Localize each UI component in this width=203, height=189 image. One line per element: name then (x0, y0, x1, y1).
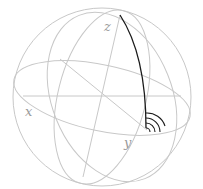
x-axis-line (60, 59, 147, 130)
sphere-diagram: z x y (0, 0, 203, 189)
sphere-outline (13, 8, 191, 186)
y-axis-label: y (123, 135, 132, 150)
signal-arcs-icon (146, 113, 165, 132)
equator-ellipse (7, 47, 197, 149)
x-axis-label: x (25, 104, 33, 119)
z-axis-label: z (103, 19, 111, 34)
meridian-ellipse-2 (23, 0, 200, 189)
